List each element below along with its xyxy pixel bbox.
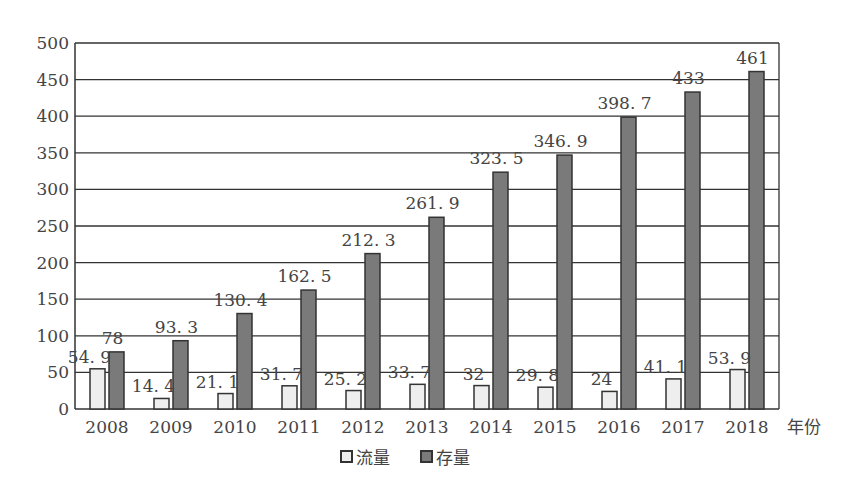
y-tick-label: 100 (37, 326, 69, 346)
data-label-flow: 33. 7 (388, 362, 431, 382)
legend-label-stock: 存量 (436, 444, 470, 469)
data-label-stock: 162. 5 (277, 266, 331, 286)
x-tick-label: 2015 (533, 417, 576, 437)
bar-stock (749, 72, 764, 409)
x-tick-label: 2009 (149, 417, 192, 437)
y-tick-label: 0 (58, 399, 69, 419)
data-label-flow: 24 (591, 369, 613, 389)
legend-item-stock: 存量 (420, 444, 470, 469)
data-label-stock: 433 (672, 68, 704, 88)
y-tick-label: 300 (37, 179, 69, 199)
data-label-flow: 21. 1 (196, 372, 239, 392)
data-label-stock: 323. 5 (469, 148, 523, 168)
x-tick-label: 2010 (213, 417, 256, 437)
bar-flow (410, 384, 425, 409)
bar-stock (237, 314, 252, 409)
bar-flow (538, 387, 553, 409)
x-tick-label: 2014 (469, 417, 512, 437)
bar-stock (493, 172, 508, 409)
y-tick-label: 400 (37, 106, 69, 126)
bar-flow (730, 370, 745, 409)
y-tick-label: 500 (37, 33, 69, 53)
bar-stock (173, 341, 188, 409)
legend-swatch-stock (420, 450, 433, 463)
data-label-stock: 130. 4 (213, 290, 267, 310)
data-label-stock: 78 (102, 328, 124, 348)
x-tick-label: 2011 (277, 417, 320, 437)
bar-flow (346, 391, 361, 409)
bar-flow (474, 386, 489, 409)
y-tick-label: 50 (47, 362, 69, 382)
legend-item-flow: 流量 (340, 444, 390, 469)
x-tick-label: 2013 (405, 417, 448, 437)
x-axis-unit-label: 年份 (787, 417, 821, 437)
bar-stock (685, 92, 700, 409)
x-tick-label: 2018 (725, 417, 768, 437)
bar-stock (109, 352, 124, 409)
bar-stock (301, 290, 316, 409)
bar-stock (365, 254, 380, 409)
bar-flow (666, 379, 681, 409)
bar-flow (282, 386, 297, 409)
x-tick-label: 2017 (661, 417, 704, 437)
bar-chart: 05010015020025030035040045050054. 978200… (0, 0, 854, 485)
data-label-stock: 93. 3 (155, 317, 198, 337)
data-label-flow: 54. 9 (68, 347, 111, 367)
bar-stock (621, 117, 636, 409)
y-tick-label: 250 (37, 216, 69, 236)
y-tick-label: 350 (37, 143, 69, 163)
bar-stock (557, 155, 572, 409)
data-label-flow: 32 (463, 364, 485, 384)
data-label-stock: 461 (736, 48, 768, 68)
data-label-stock: 398. 7 (597, 93, 651, 113)
y-tick-label: 200 (37, 253, 69, 273)
x-tick-label: 2012 (341, 417, 384, 437)
legend: 流量 存量 (340, 444, 470, 469)
data-label-stock: 212. 3 (341, 230, 395, 250)
data-label-stock: 346. 9 (533, 131, 587, 151)
x-tick-label: 2008 (85, 417, 128, 437)
legend-label-flow: 流量 (356, 444, 390, 469)
legend-swatch-flow (340, 450, 353, 463)
bar-flow (90, 369, 105, 409)
bar-flow (218, 394, 233, 409)
data-label-flow: 14. 4 (132, 376, 175, 396)
bar-flow (154, 398, 169, 409)
y-tick-label: 150 (37, 289, 69, 309)
data-label-flow: 31. 7 (260, 364, 303, 384)
data-label-stock: 261. 9 (405, 193, 459, 213)
x-tick-label: 2016 (597, 417, 640, 437)
bar-stock (429, 217, 444, 409)
data-label-flow: 53. 9 (708, 348, 751, 368)
data-label-flow: 29. 8 (516, 365, 559, 385)
data-label-flow: 25. 2 (324, 369, 367, 389)
y-tick-label: 450 (37, 70, 69, 90)
bar-flow (602, 391, 617, 409)
data-label-flow: 41. 1 (644, 357, 687, 377)
